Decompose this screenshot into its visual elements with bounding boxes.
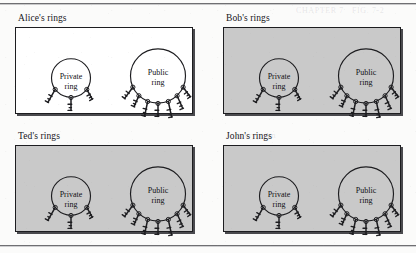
keyring-private-bob: Privatering <box>248 54 310 118</box>
keyring-private-ted: Privatering <box>40 172 102 236</box>
panel-ted: Ted's rings PrivateringPublicring <box>0 126 208 244</box>
top-rule-hairline <box>0 4 416 5</box>
panel-grid: Alice's rings PrivateringPublicring Bob'… <box>0 8 416 244</box>
panel-box-john: PrivateringPublicring <box>223 145 401 232</box>
bottom-rule-hairline <box>0 246 416 247</box>
keyring-public-bob: Publicring <box>324 47 408 125</box>
panel-label-bob: Bob's rings <box>226 13 270 23</box>
panel-alice: Alice's rings PrivateringPublicring <box>0 8 208 126</box>
panel-box-bob: PrivateringPublicring <box>223 27 401 114</box>
panel-label-alice: Alice's rings <box>18 13 67 23</box>
panel-bob: Bob's rings PrivateringPublicring <box>208 8 416 126</box>
keyring-public-john: Publicring <box>324 165 408 243</box>
keyring-public-ted: Publicring <box>116 165 200 243</box>
keyring-private-john: Privatering <box>248 172 310 236</box>
panel-box-alice: PrivateringPublicring <box>15 27 193 114</box>
panel-label-ted: Ted's rings <box>18 131 60 141</box>
panel-box-ted: PrivateringPublicring <box>15 145 193 232</box>
keyring-private-alice: Privatering <box>40 54 102 118</box>
keyring-public-alice: Publicring <box>116 47 200 125</box>
panel-label-john: John's rings <box>226 131 272 141</box>
panel-john: John's rings PrivateringPublicring <box>208 126 416 244</box>
